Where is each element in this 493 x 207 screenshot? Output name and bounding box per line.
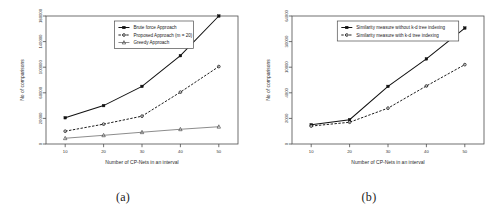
series-0-point [425,58,428,61]
y-axis-title: No of comparisons [19,59,25,101]
x-tick-label: 20 [347,149,352,154]
series-0-point [179,54,182,57]
x-tick-label: 50 [462,149,467,154]
series-1-point-dot [180,92,181,93]
legend-label-1: Proposed Approach (m = 20) [133,33,192,38]
y-tick-label: 10000 [284,61,289,73]
y-tick-label: 4000 [284,87,289,97]
y-tick-label: 140000 [38,34,43,49]
series-1-point-dot [464,64,465,65]
series-line-1 [65,67,219,132]
legend-box [337,21,458,41]
series-0-point [387,85,390,88]
x-tick-label: 50 [216,149,221,154]
y-tick-label: 60000 [38,86,43,98]
panel-a: 020000600001000001400001800001020304050N… [0,0,246,207]
panel-a-caption: (a) [0,190,246,205]
y-tick-label: 64000 [284,10,289,22]
series-0-point [64,116,67,119]
y-tick-label: 0 [38,142,43,145]
x-tick-label: 10 [309,149,314,154]
legend-key-0-marker [346,26,349,29]
y-tick-label: 100000 [38,60,43,75]
y-tick-label: 180000 [38,8,43,23]
series-1-point-dot [388,108,389,109]
series-0-point [464,27,467,30]
legend-key-0-marker [123,26,126,29]
series-1-point-dot [142,116,143,117]
x-axis-title: Number of CP-Nets in an interval [105,159,178,165]
figure-container: 020000600001000001400001800001020304050N… [0,0,493,207]
series-1-point-dot [426,86,427,87]
legend-key-1-marker-dot [346,35,347,36]
legend-key-1-marker-dot [124,35,125,36]
y-tick-label: 2000 [284,113,289,123]
legend-label-1: Similarity measure with k-d tree indexin… [356,33,439,38]
x-tick-label: 40 [424,149,429,154]
x-tick-label: 20 [101,149,106,154]
series-0-point [218,15,221,18]
series-0-point [102,104,105,107]
panel-b: 0200040001000030000640001020304050Number… [246,0,492,207]
chart-b-svg: 0200040001000030000640001020304050Number… [246,0,492,178]
legend-label-0: Brute force Approach [133,25,177,30]
series-line-1 [311,65,465,126]
y-tick-label: 20000 [38,112,43,124]
legend-label-2: Greedy Approach [133,40,169,45]
chart-a-svg: 020000600001000001400001800001020304050N… [0,0,246,178]
series-1-point-dot [218,66,219,67]
series-line-0 [311,28,465,125]
y-axis-title: No of comparisons [265,59,271,101]
series-line-2 [65,127,219,139]
x-axis-title: Number of CP-Nets in an interval [351,159,424,165]
legend-label-0: Similarity measure without k-d tree inde… [356,25,445,30]
x-tick-label: 40 [178,149,183,154]
series-1-point-dot [349,122,350,123]
x-tick-label: 10 [63,149,68,154]
y-tick-label: 0 [284,142,289,145]
series-1-point-dot [103,124,104,125]
x-tick-label: 30 [140,149,145,154]
chart-b-plot: 0200040001000030000640001020304050Number… [246,0,492,178]
chart-a-plot: 020000600001000001400001800001020304050N… [0,0,246,178]
y-tick-label: 30000 [284,35,289,47]
series-1-point-dot [65,131,66,132]
x-tick-label: 30 [386,149,391,154]
series-2-point [217,125,220,128]
panel-b-caption: (b) [246,190,492,205]
series-0-point [141,85,144,88]
series-1-point-dot [311,126,312,127]
